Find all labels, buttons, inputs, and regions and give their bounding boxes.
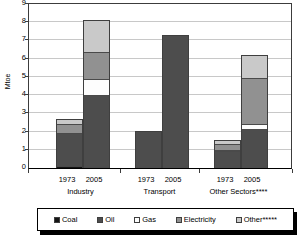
bar-segment-oil bbox=[242, 129, 267, 168]
legend-item: Electricity bbox=[176, 215, 216, 224]
gridline bbox=[29, 21, 291, 22]
bar-industry-1973 bbox=[56, 119, 83, 168]
x-axis-year-label: 2005 bbox=[235, 175, 269, 184]
bar-segment-oil bbox=[215, 151, 240, 168]
plot-area bbox=[28, 3, 292, 169]
x-axis-year-label: 2005 bbox=[156, 175, 190, 184]
legend-label: Other***** bbox=[244, 215, 277, 224]
bar-other-sectors-2005 bbox=[241, 55, 268, 168]
y-axis-tick-label: 8 bbox=[10, 17, 26, 25]
bar-segment-electricity bbox=[84, 52, 109, 79]
bar-segment-coal bbox=[57, 166, 82, 168]
legend-label: Coal bbox=[62, 215, 77, 224]
bar-segment-oil bbox=[57, 133, 82, 165]
bar-transport-2005 bbox=[162, 35, 189, 168]
legend-label: Electricity bbox=[184, 215, 216, 224]
bar-industry-2005 bbox=[83, 20, 110, 168]
legend-item: Gas bbox=[134, 215, 156, 224]
chart-legend: CoalOilGasElectricityOther***** bbox=[37, 208, 294, 231]
y-axis-tick-label: 6 bbox=[10, 54, 26, 62]
bar-transport-1973 bbox=[135, 131, 162, 168]
y-axis-tick-label: 3 bbox=[10, 108, 26, 116]
x-axis-group-separator bbox=[199, 169, 200, 173]
stacked-bar-chart: Mtoe 0123456789 197320051973200519732005… bbox=[0, 0, 301, 245]
bar-segment-oil bbox=[84, 95, 109, 166]
bar-segment-gas bbox=[84, 79, 109, 95]
bar-other-sectors-1973 bbox=[214, 140, 241, 168]
x-axis-group-label: Other Sectors**** bbox=[184, 187, 294, 196]
bar-segment-other bbox=[84, 21, 109, 51]
legend-item: Other***** bbox=[236, 215, 277, 224]
y-axis-tick-label: 2 bbox=[10, 127, 26, 135]
legend-swatch-icon bbox=[176, 217, 182, 223]
legend-item: Coal bbox=[54, 215, 77, 224]
bar-segment-oil bbox=[136, 132, 161, 168]
legend-label: Oil bbox=[105, 215, 114, 224]
y-axis-tick-label: 9 bbox=[10, 0, 26, 7]
bar-segment-coal bbox=[84, 167, 109, 168]
y-axis-tick-label: 5 bbox=[10, 72, 26, 80]
bar-segment-oil bbox=[163, 36, 188, 168]
bar-segment-electricity bbox=[242, 78, 267, 124]
bar-segment-other bbox=[242, 56, 267, 78]
y-axis-tick-label: 7 bbox=[10, 35, 26, 43]
x-axis-year-label: 2005 bbox=[77, 175, 111, 184]
y-axis-tick-label: 0 bbox=[10, 163, 26, 171]
x-axis-group-separator bbox=[28, 169, 29, 173]
legend-label: Gas bbox=[142, 215, 156, 224]
legend-swatch-icon bbox=[97, 217, 103, 223]
y-axis-tick-label: 4 bbox=[10, 90, 26, 98]
gridline bbox=[29, 39, 291, 40]
bar-segment-electricity bbox=[57, 124, 82, 133]
legend-swatch-icon bbox=[54, 217, 60, 223]
legend-item: Oil bbox=[97, 215, 114, 224]
y-axis-tick-label: 1 bbox=[10, 145, 26, 153]
x-axis-group-separator bbox=[120, 169, 121, 173]
x-axis-group-separator bbox=[292, 169, 293, 173]
legend-swatch-icon bbox=[236, 217, 242, 223]
legend-swatch-icon bbox=[134, 217, 140, 223]
